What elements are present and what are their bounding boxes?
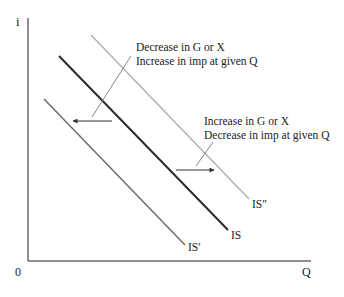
left-annotation-line2: Increase in imp at given Q bbox=[136, 55, 258, 68]
is-prime-curve bbox=[44, 99, 185, 245]
right-annotation-line2: Decrease in imp at given Q bbox=[204, 129, 330, 142]
is-double-prime-label: IS″ bbox=[252, 198, 267, 211]
left-annotation-line1: Decrease in G or X bbox=[136, 41, 225, 54]
is-curve bbox=[59, 56, 228, 230]
is-label: IS bbox=[231, 229, 241, 242]
y-axis-label: i bbox=[16, 15, 20, 28]
left-pointer-line bbox=[92, 56, 131, 117]
x-axis-label: Q bbox=[302, 266, 311, 279]
right-annotation-line1: Increase in G or X bbox=[204, 115, 289, 128]
origin-label: 0 bbox=[15, 266, 21, 279]
is-prime-label: IS′ bbox=[188, 241, 201, 254]
